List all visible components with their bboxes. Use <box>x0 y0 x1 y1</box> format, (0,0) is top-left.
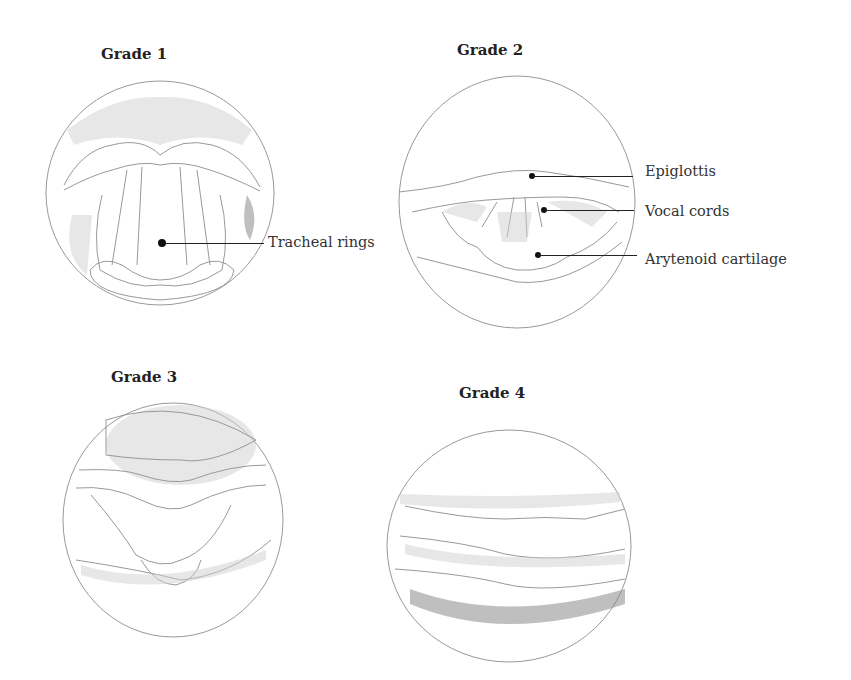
grade-2-title: Grade 2 <box>457 41 523 59</box>
vocal-cords-label: Vocal cords <box>645 203 729 219</box>
grade-3-title: Grade 3 <box>111 368 177 386</box>
tracheal-rings-dot <box>158 239 166 247</box>
tracheal-rings-leader <box>162 243 264 244</box>
grade-1-title: Grade 1 <box>101 45 167 63</box>
arytenoid-cartilage-leader <box>539 255 637 256</box>
epiglottis-label: Epiglottis <box>645 163 716 179</box>
tracheal-rings-label: Tracheal rings <box>268 234 375 250</box>
grade-4-laryngoscopy-illustration <box>385 424 635 664</box>
grade-4-title: Grade 4 <box>459 384 525 402</box>
grade-2-laryngoscopy-illustration <box>397 72 637 332</box>
vocal-cords-leader <box>545 210 634 211</box>
grade-1-laryngoscopy-illustration <box>42 75 282 315</box>
grade-3-laryngoscopy-illustration <box>61 400 286 640</box>
arytenoid-cartilage-label: Arytenoid cartilage <box>645 251 787 267</box>
epiglottis-leader <box>533 176 633 177</box>
